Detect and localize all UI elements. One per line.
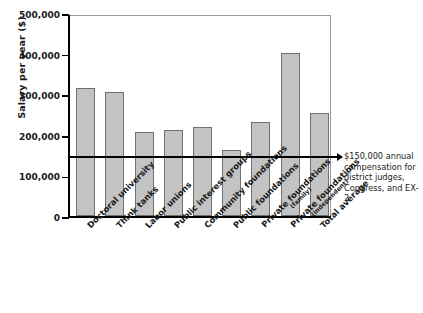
y-axis-title: Salary per year ($) — [16, 0, 27, 143]
salary-bar-chart: Salary per year ($) 0100,000200,000300,0… — [0, 0, 423, 313]
y-tick-label: 400,000 — [0, 51, 60, 61]
bar — [76, 88, 95, 216]
y-tick-label: 300,000 — [0, 91, 60, 101]
reference-line-arrow-icon — [337, 153, 343, 161]
y-tick-label: 100,000 — [0, 172, 60, 182]
y-tick-label: 500,000 — [0, 10, 60, 20]
reference-line — [68, 156, 337, 158]
plot-area — [68, 15, 331, 218]
y-tick-label: 200,000 — [0, 132, 60, 142]
y-tick-label: 0 — [0, 213, 60, 223]
